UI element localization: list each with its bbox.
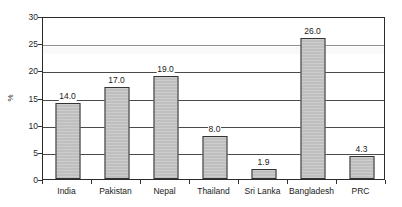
x-category-label: India (42, 185, 91, 197)
x-tick-mark (287, 180, 288, 184)
y-tick-label: 5 (16, 149, 38, 157)
bar[interactable] (153, 76, 178, 179)
bar[interactable] (104, 87, 129, 179)
x-tick-mark (140, 180, 141, 184)
x-tick-mark (238, 180, 239, 184)
bar-value-label: 4.3 (355, 145, 369, 154)
bar-slot: 4.3 (337, 18, 386, 179)
x-axis-category-labels: IndiaPakistanNepalThailandSri LankaBangl… (42, 185, 385, 201)
y-tick-label: 30 (16, 13, 38, 21)
x-category-label: PRC (336, 185, 385, 197)
plot-area: 14.017.019.08.01.926.04.3 (42, 17, 385, 180)
bar-value-label: 14.0 (58, 92, 77, 101)
x-tick-mark (91, 180, 92, 184)
bar-slot: 8.0 (190, 18, 239, 179)
bar-value-label: 19.0 (156, 65, 175, 74)
x-tick-mark (385, 180, 386, 184)
x-category-label: Sri Lanka (238, 185, 287, 197)
x-category-label: Pakistan (91, 185, 140, 197)
x-tick-mark (42, 180, 43, 184)
bar[interactable] (55, 103, 80, 179)
y-tick-label: 25 (16, 40, 38, 48)
x-tick-mark (189, 180, 190, 184)
x-category-label: Bangladesh (287, 185, 336, 197)
bar-value-label: 17.0 (107, 76, 126, 85)
bar-chart: % 051015202530 14.017.019.08.01.926.04.3… (0, 0, 402, 207)
y-axis-tick-labels: 051015202530 (14, 0, 38, 207)
bar-slot: 19.0 (141, 18, 190, 179)
bar[interactable] (202, 136, 227, 179)
y-tick-label: 15 (16, 95, 38, 103)
bar-slot: 26.0 (288, 18, 337, 179)
y-tick-label: 0 (16, 176, 38, 184)
y-tick-label: 20 (16, 67, 38, 75)
bars-layer: 14.017.019.08.01.926.04.3 (43, 18, 384, 179)
bar-value-label: 1.9 (257, 158, 271, 167)
bar[interactable] (300, 38, 325, 179)
bar[interactable] (251, 169, 276, 179)
bar-value-label: 8.0 (208, 125, 222, 134)
bar-slot: 17.0 (92, 18, 141, 179)
bar[interactable] (349, 156, 374, 179)
x-tick-mark (336, 180, 337, 184)
x-category-label: Thailand (189, 185, 238, 197)
y-tick-label: 10 (16, 122, 38, 130)
x-category-label: Nepal (140, 185, 189, 197)
bar-slot: 14.0 (43, 18, 92, 179)
bar-value-label: 26.0 (303, 27, 322, 36)
bar-slot: 1.9 (239, 18, 288, 179)
